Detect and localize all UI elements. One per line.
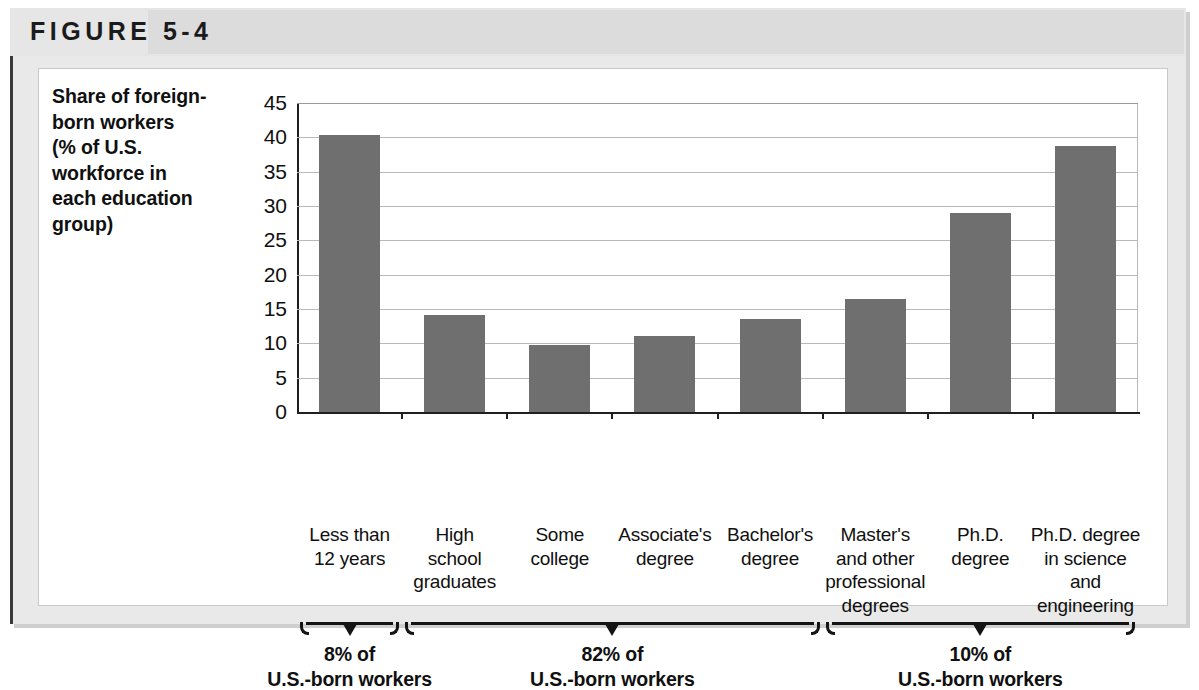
bar — [740, 319, 801, 412]
y-axis-title-line: group) — [52, 212, 252, 238]
y-axis-title-line: workforce in — [52, 161, 252, 187]
y-axis-tick-label: 20 — [264, 263, 287, 287]
x-axis-category-label-line: degree — [712, 547, 829, 571]
gridline — [297, 343, 1138, 344]
group-bracket — [826, 622, 1135, 637]
x-axis-category-label-line: 12 years — [291, 547, 408, 571]
gridline — [297, 137, 1138, 138]
x-axis-tickmark — [717, 412, 719, 419]
y-axis-tick-label: 15 — [264, 297, 287, 321]
bracket-pointer — [605, 624, 619, 636]
bracket-pointer — [343, 624, 357, 636]
group-bracket — [300, 622, 399, 637]
gridline — [297, 275, 1138, 276]
x-axis-category-label: Less than12 years — [291, 523, 408, 570]
plot-area: 051015202530354045 Less than12 yearsHigh… — [297, 103, 1138, 412]
bracket-pointer — [973, 624, 987, 636]
x-axis-tickmark — [822, 412, 824, 419]
bracket-cap-right — [390, 622, 399, 635]
gridline — [297, 172, 1138, 173]
y-axis-title-line: each education — [52, 186, 252, 212]
bar — [1055, 146, 1116, 412]
y-axis-tick-label: 25 — [264, 228, 287, 252]
x-axis-category-label-line: college — [501, 547, 618, 571]
x-axis-category-label-line: engineering — [1027, 594, 1144, 618]
x-axis-tickmark — [927, 412, 929, 419]
x-axis-category-label-line: Ph.D. degree — [1027, 523, 1144, 547]
x-axis-category-label: Associate'sdegree — [606, 523, 723, 570]
x-axis-tickmark — [611, 412, 613, 419]
x-axis-category-label-line: Master's — [817, 523, 934, 547]
x-axis-category-label-line: and — [1027, 570, 1144, 594]
bracket-cap-right — [811, 622, 820, 635]
x-axis-category-label-line: Bachelor's — [712, 523, 829, 547]
y-axis-tick-label: 35 — [264, 160, 287, 184]
y-axis-tick-label: 40 — [264, 125, 287, 149]
x-axis-category-label: Ph.D. degreein scienceandengineering — [1027, 523, 1144, 617]
x-axis-category-label-line: Less than — [291, 523, 408, 547]
x-axis-category-label-line: professional — [817, 570, 934, 594]
x-axis-category-label-line: graduates — [396, 570, 513, 594]
x-axis-category-label-line: degree — [922, 547, 1039, 571]
bracket-caption-percent: 82% of — [452, 642, 772, 667]
bar — [845, 299, 906, 412]
x-axis-category-label-line: and other — [817, 547, 934, 571]
x-axis-category-label-line: High — [396, 523, 513, 547]
x-axis-category-label-line: degrees — [817, 594, 934, 618]
x-axis-tickmark — [401, 412, 403, 419]
x-axis-category-label-line: degree — [606, 547, 723, 571]
bracket-cap-left — [826, 622, 835, 635]
bar — [950, 213, 1011, 412]
bracket-cap-left — [405, 622, 414, 635]
group-bracket — [405, 622, 820, 637]
gridline — [297, 103, 1138, 104]
bracket-caption: 10% ofU.S.-born workers — [820, 642, 1140, 690]
gridline — [297, 206, 1138, 207]
bracket-caption-text: U.S.-born workers — [452, 667, 772, 690]
x-axis-category-label: Ph.D.degree — [922, 523, 1039, 570]
y-axis-title: Share of foreign-born workers(% of U.S.w… — [52, 84, 252, 237]
bar — [319, 135, 380, 412]
bar — [529, 345, 590, 412]
bracket-cap-left — [300, 622, 309, 635]
gridline — [297, 240, 1138, 241]
x-axis-tickmark — [1032, 412, 1034, 419]
x-axis-category-label: Highschoolgraduates — [396, 523, 513, 594]
plot-right-edge — [1137, 103, 1138, 412]
bracket-caption-percent: 10% of — [820, 642, 1140, 667]
bracket-caption-text: U.S.-born workers — [820, 667, 1140, 690]
x-axis-category-label: Bachelor'sdegree — [712, 523, 829, 570]
x-axis-tickmark — [506, 412, 508, 419]
x-axis-category-label: Somecollege — [501, 523, 618, 570]
y-axis-tick-label: 10 — [264, 331, 287, 355]
y-axis-tick-label: 0 — [275, 400, 287, 424]
bracket-cap-right — [1126, 622, 1135, 635]
x-axis-category-label-line: Ph.D. — [922, 523, 1039, 547]
x-axis-category-label-line: school — [396, 547, 513, 571]
y-axis-title-line: Share of foreign- — [52, 84, 252, 110]
figure-header-band-accent — [148, 10, 1184, 54]
gridline — [297, 309, 1138, 310]
figure-label: FIGURE 5-4 — [30, 17, 213, 46]
y-axis-title-line: born workers — [52, 110, 252, 136]
x-axis-category-label: Master'sand otherprofessionaldegrees — [817, 523, 934, 617]
x-axis-category-label-line: Associate's — [606, 523, 723, 547]
y-axis-tick-label: 30 — [264, 194, 287, 218]
bar — [424, 315, 485, 413]
x-axis-category-label-line: in science — [1027, 547, 1144, 571]
y-axis-title-line: (% of U.S. — [52, 135, 252, 161]
bar — [634, 336, 695, 412]
bracket-caption: 82% ofU.S.-born workers — [452, 642, 772, 690]
gridline — [297, 378, 1138, 379]
x-axis-category-label-line: Some — [501, 523, 618, 547]
y-axis-tick-label: 45 — [264, 91, 287, 115]
y-axis-tick-label: 5 — [275, 366, 287, 390]
